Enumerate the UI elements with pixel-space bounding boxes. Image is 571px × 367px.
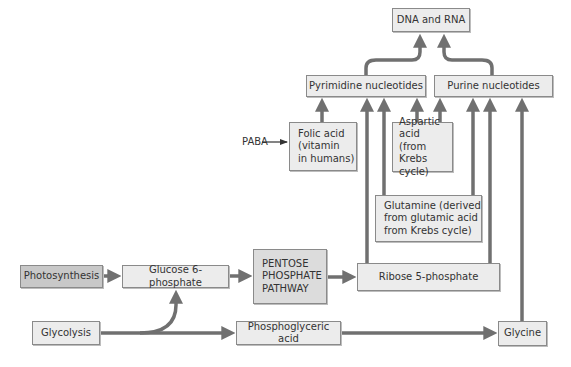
node-dna-rna: DNA and RNA [392, 8, 470, 32]
arrow-purine-to-dna [444, 40, 492, 75]
label-paba: PABA [242, 136, 268, 147]
node-aspartic-acid: Aspartic acid (from Krebs cycle) [392, 122, 453, 172]
nucleotide-biosynthesis-diagram: DNA and RNA Pyrimidine nucleotides Purin… [0, 0, 571, 367]
node-glutamine: Glutamine (derived from glutamic acid fr… [375, 195, 482, 242]
arrows-layer [0, 0, 571, 367]
node-photosynthesis: Photosynthesis [20, 265, 103, 288]
node-purine-nucleotides: Purine nucleotides [434, 75, 553, 97]
node-glycolysis: Glycolysis [32, 321, 100, 345]
arrow-pyrimidine-to-dna [366, 40, 420, 75]
node-folic-acid: Folic acid (vitamin in humans) [289, 122, 357, 171]
node-glycine: Glycine [498, 321, 547, 346]
node-phosphoglyceric-acid: Phosphoglyceric acid [236, 321, 341, 345]
node-ribose-5-phosphate: Ribose 5-phosphate [357, 263, 500, 291]
node-glucose-6-phosphate: Glucose 6-phosphate [122, 265, 229, 288]
node-pyrimidine-nucleotides: Pyrimidine nucleotides [306, 75, 426, 97]
node-pentose-phosphate-pathway: PENTOSE PHOSPHATE PATHWAY [253, 249, 327, 304]
